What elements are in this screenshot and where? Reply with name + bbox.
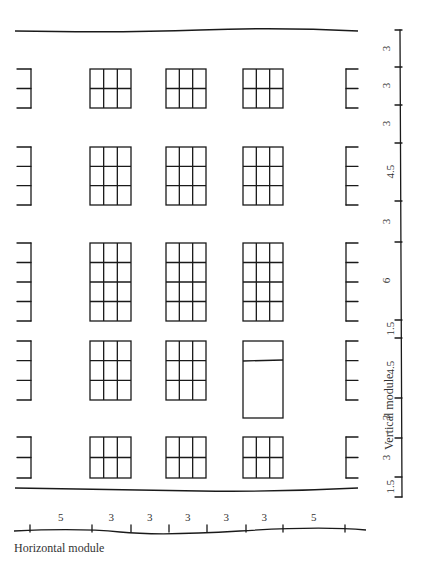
window xyxy=(90,243,131,321)
window xyxy=(166,243,206,321)
vertical-module-label: 3 xyxy=(381,45,392,51)
horizontal-module-label: 3 xyxy=(224,512,230,523)
vertical-module-axis xyxy=(400,30,402,497)
vertical-module-label: 3 xyxy=(381,454,392,460)
window xyxy=(243,243,283,321)
window xyxy=(166,69,206,108)
vertical-module-label: 4.5 xyxy=(385,165,396,179)
vertical-module-label: 3 xyxy=(381,121,392,127)
window xyxy=(90,341,131,400)
facade-module-diagram xyxy=(0,0,439,562)
roof-line xyxy=(15,29,358,32)
horizontal-module-axis xyxy=(14,528,366,534)
window xyxy=(90,69,131,108)
window xyxy=(166,437,206,478)
vertical-module-label: 6 xyxy=(381,278,392,284)
window xyxy=(243,69,283,108)
window xyxy=(90,437,131,478)
horizontal-module-label: 5 xyxy=(58,512,64,523)
ground-line xyxy=(15,488,358,491)
vertical-module-label: 3 xyxy=(381,83,392,89)
window xyxy=(243,437,283,478)
facade-drawing xyxy=(0,0,439,562)
horizontal-module-label: 3 xyxy=(262,512,268,523)
horizontal-module-label: 3 xyxy=(109,512,115,523)
vertical-module-label: 3 xyxy=(381,218,392,224)
window xyxy=(243,147,283,205)
horizontal-module-caption: Horizontal module xyxy=(14,541,104,556)
window xyxy=(166,147,206,205)
vertical-module-label: 1.5 xyxy=(385,480,396,494)
horizontal-module-label: 3 xyxy=(185,512,191,523)
vertical-module-label: 1.5 xyxy=(385,322,396,336)
window xyxy=(166,341,206,400)
vertical-module-caption: Vertical module xyxy=(382,350,397,450)
door xyxy=(243,341,283,418)
horizontal-module-label: 3 xyxy=(147,512,153,523)
horizontal-module-label: 5 xyxy=(311,512,317,523)
window xyxy=(90,147,131,205)
